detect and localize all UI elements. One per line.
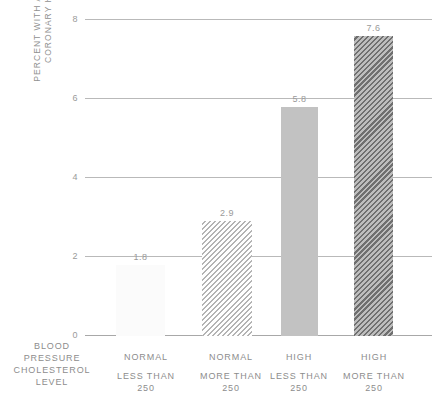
y-tick-label-8: 8 xyxy=(72,14,78,24)
bar-chart: PERCENT WITH ATHEROSCLEROTIC CORONARY HE… xyxy=(0,0,440,399)
y-tick-label-6: 6 xyxy=(72,93,78,103)
bar-high-more-than-250[interactable]: 7.6 xyxy=(354,36,393,336)
bar-normal-more-than-250[interactable]: 2.9 xyxy=(202,221,252,336)
y-axis-title: PERCENT WITH ATHEROSCLEROTIC CORONARY HE… xyxy=(26,0,60,102)
bar-value-label-2: 2.9 xyxy=(220,208,234,218)
cropped-header-text xyxy=(210,0,435,5)
y-tick-label-2: 2 xyxy=(72,251,78,261)
row-label-blood-pressure-line-2: PRESSURE xyxy=(0,353,104,365)
chol-value-4-line-1: MORE THAN xyxy=(329,371,419,383)
bar-high-less-than-250[interactable]: 5.8 xyxy=(281,107,318,336)
bar-value-label-4: 7.6 xyxy=(366,23,380,33)
row-label-cholesterol: CHOLESTEROL LEVEL xyxy=(0,365,104,388)
chol-value-4-line-2: 250 xyxy=(329,383,419,395)
y-axis-title-line-2: CORONARY HEART DISEASE xyxy=(43,0,55,63)
plot-area: 8 6 4 2 0 1.8 2.9 5.8 7.6 xyxy=(85,20,432,336)
x-axis-label-table: BLOOD PRESSURE CHOLESTEROL LEVEL NORMAL … xyxy=(0,340,440,399)
bar-normal-less-than-250[interactable]: 1.8 xyxy=(116,265,165,336)
bp-value-1: NORMAL xyxy=(106,352,186,364)
gridline-8: 8 xyxy=(85,19,432,20)
y-tick-label-0: 0 xyxy=(72,330,78,340)
y-axis-title-line-1: PERCENT WITH ATHEROSCLEROTIC xyxy=(32,0,44,82)
row-label-cholesterol-line-1: CHOLESTEROL xyxy=(0,365,104,377)
row-label-cholesterol-line-2: LEVEL xyxy=(0,377,104,389)
chol-value-4: MORE THAN 250 xyxy=(329,371,419,394)
y-tick-label-4: 4 xyxy=(72,172,78,182)
bar-value-label-3: 5.8 xyxy=(292,94,306,104)
bp-value-3: HIGH xyxy=(259,352,339,364)
chol-value-1-line-1: LESS THAN xyxy=(101,371,191,383)
chol-value-1-line-2: 250 xyxy=(101,383,191,395)
chol-value-1: LESS THAN 250 xyxy=(101,371,191,394)
bp-value-4: HIGH xyxy=(334,352,414,364)
row-label-blood-pressure-line-1: BLOOD xyxy=(0,341,104,353)
bar-value-label-1: 1.8 xyxy=(133,252,147,262)
row-label-blood-pressure: BLOOD PRESSURE xyxy=(0,341,104,364)
